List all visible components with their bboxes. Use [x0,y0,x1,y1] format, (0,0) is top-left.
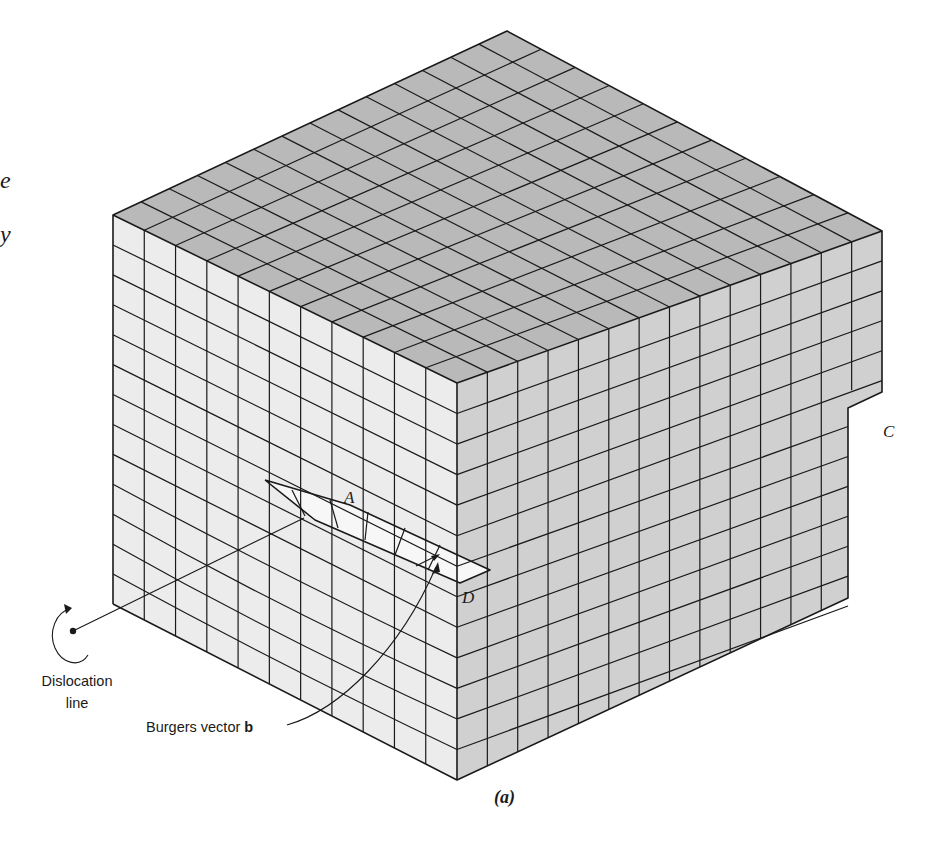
point-label-A: A [343,488,355,507]
burgers-label: Burgers vector b [146,719,253,735]
margin-fragment-1: e [0,167,11,193]
rotation-arrow-icon [52,609,88,663]
screw-dislocation-figure: e y Dislocation line [0,0,928,847]
point-label-C: C [883,422,895,441]
figure-caption: (a) [494,787,515,808]
dislocation-label-line1: Dislocation [42,673,113,689]
burgers-label-text: Burgers vector [146,719,244,735]
burgers-symbol: b [244,719,253,735]
margin-fragment-2: y [0,221,11,247]
crystal-lattice-cube [113,31,882,780]
rotation-arrowhead-icon [64,604,72,614]
point-label-D: D [461,588,475,607]
dislocation-label-line2: line [66,695,89,711]
dislocation-point [70,628,76,634]
